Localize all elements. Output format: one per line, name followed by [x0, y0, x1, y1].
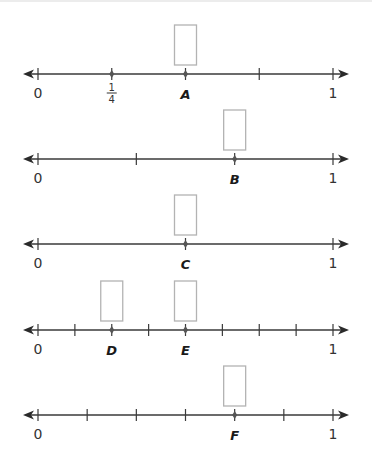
label-zero: 0: [34, 341, 43, 357]
label-one: 1: [329, 426, 338, 442]
label-zero: 0: [34, 255, 43, 271]
label-one: 1: [329, 255, 338, 271]
fraction-label: 14: [107, 82, 117, 105]
point-dot: [109, 326, 114, 334]
point-dot: [232, 411, 237, 419]
answer-box-a[interactable]: [175, 25, 197, 65]
number-line-5: 01F: [23, 366, 349, 443]
number-line-1: 0114A: [23, 25, 349, 105]
point-dot: [183, 240, 188, 248]
fraction-numerator: 1: [109, 82, 115, 93]
answer-box-e[interactable]: [175, 281, 197, 321]
number-lines-diagram: 0114A01B01C01DE01F: [0, 0, 372, 466]
number-line-3: 01C: [23, 195, 349, 272]
point-dot: [109, 70, 114, 78]
label-one: 1: [329, 341, 338, 357]
point-dot: [183, 70, 188, 78]
label-zero: 0: [34, 170, 43, 186]
fraction-denominator: 4: [109, 94, 115, 105]
label-one: 1: [329, 85, 338, 101]
label-one: 1: [329, 170, 338, 186]
label-zero: 0: [34, 85, 43, 101]
label-zero: 0: [34, 426, 43, 442]
point-label-b: B: [230, 172, 240, 187]
answer-box-d[interactable]: [101, 281, 123, 321]
number-line-4: 01DE: [23, 281, 349, 358]
answer-box-f[interactable]: [224, 366, 246, 406]
answer-box-b[interactable]: [224, 110, 246, 150]
point-label-a: A: [179, 87, 190, 102]
point-label-c: C: [181, 257, 191, 272]
answer-box-c[interactable]: [175, 195, 197, 235]
point-label-e: E: [181, 343, 190, 358]
point-label-d: D: [106, 343, 117, 358]
point-label-f: F: [230, 428, 239, 443]
number-line-2: 01B: [23, 110, 349, 187]
point-dot: [183, 326, 188, 334]
point-dot: [232, 155, 237, 163]
